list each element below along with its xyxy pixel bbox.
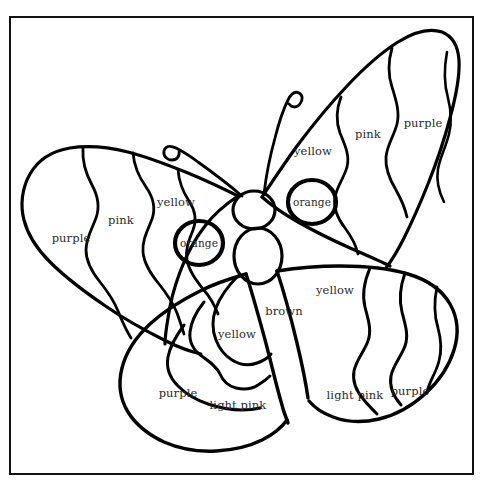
- left-upper-wing-outline: [22, 147, 238, 354]
- label-right-eyespot-orange: orange: [293, 197, 331, 208]
- right-antenna: [264, 92, 302, 194]
- right-upper-band-yellow-pink: [335, 97, 358, 254]
- left-antenna: [164, 146, 242, 196]
- butterfly-abdomen: [234, 228, 282, 284]
- label-left-lower-light-pink: light pink: [210, 400, 267, 412]
- label-left-eyespot-orange: orange: [180, 238, 218, 249]
- right-upper-wing-outline: [262, 30, 459, 268]
- label-left-upper-yellow: yellow: [157, 197, 195, 209]
- right-upper-band-pink-purple: [386, 48, 407, 217]
- label-right-lower-light-pink: light pink: [327, 390, 384, 402]
- label-left-lower-yellow: yellow: [218, 329, 256, 341]
- label-left-upper-purple: purple: [52, 233, 91, 245]
- label-right-lower-yellow: yellow: [316, 285, 354, 297]
- label-right-lower-purple: purple: [391, 386, 430, 398]
- butterfly-head: [233, 191, 275, 229]
- label-left-lower-purple: purple: [159, 388, 198, 400]
- label-right-upper-yellow: yellow: [294, 146, 332, 158]
- right-lower-outer-crease: [427, 287, 441, 392]
- label-right-upper-purple: purple: [404, 118, 443, 130]
- label-body-brown: brown: [265, 306, 303, 318]
- left-upper-wing-lower-edge: [165, 196, 238, 344]
- right-lower-wing-inner-edge: [277, 271, 308, 398]
- label-right-upper-pink: pink: [355, 129, 381, 141]
- label-left-upper-pink: pink: [108, 215, 134, 227]
- left-lower-inner-divider: [213, 276, 271, 365]
- coloring-page-canvas: purple pink yellow orange yellow pink pu…: [0, 0, 483, 489]
